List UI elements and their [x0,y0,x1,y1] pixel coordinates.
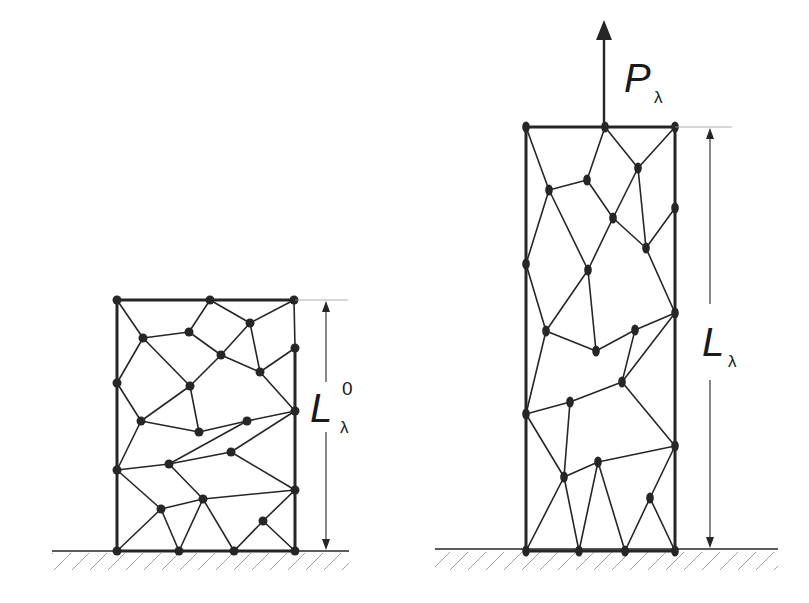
node [522,409,530,420]
spring-link [234,521,263,551]
spring-link [625,498,650,551]
spring-link [141,386,190,421]
spring-link [570,382,622,402]
node [291,547,300,556]
node [227,448,236,457]
node [186,382,195,391]
node [195,428,204,437]
spring-link [161,509,179,551]
node [621,546,629,557]
arrowhead-down-icon [322,539,330,550]
node [243,417,252,426]
spring-link [294,300,295,348]
spring-link [221,355,260,372]
node [575,546,583,557]
dimension-arrows [295,20,732,550]
node [113,379,122,388]
node [113,466,122,475]
node [522,546,530,557]
node [522,259,530,270]
node [259,517,268,526]
spring-link [199,421,247,432]
spring-link [596,330,635,351]
node [291,344,300,353]
spring-link [117,421,141,470]
spring-link [179,499,203,551]
spring-link [546,270,588,331]
reference-mesh [113,296,300,556]
node [542,326,550,337]
reference-length-symbol: L [310,386,332,430]
load-subscript: λ [654,88,663,108]
spring-link [650,446,675,498]
ground-hatching [52,553,349,575]
node [291,486,300,495]
spring-link [646,248,675,313]
reference-length-subscript: λ [340,418,349,438]
node [631,325,639,336]
spring-link [117,470,161,509]
node [165,460,174,469]
node [246,319,255,328]
spring-link [564,462,598,477]
node [157,505,166,514]
node [113,296,122,305]
spring-link [564,477,579,551]
spring-link [549,180,587,190]
spring-link [117,464,169,470]
spring-link [263,490,295,521]
reference-length-label: L λ 0 [310,388,332,428]
node [634,163,642,174]
arrowhead-down-icon [706,537,714,548]
node [618,377,626,388]
spring-link [169,421,247,464]
spring-link [203,490,295,499]
spring-link [549,190,588,270]
spring-link [189,332,221,355]
spring-link [650,498,675,551]
node [566,397,574,408]
spring-link [117,383,141,421]
spring-link [638,127,675,168]
spring-link [143,338,190,386]
node [175,547,184,556]
node [206,296,215,305]
node [592,346,600,357]
spring-link [526,264,546,331]
deformed-length-symbol: L [702,320,724,364]
node [137,417,146,426]
load-arrowhead-icon [596,20,612,40]
load-label: P λ [624,58,651,98]
spring-link [526,477,564,551]
load-symbol: P [624,56,651,100]
node [671,203,679,214]
deformed-length-subscript: λ [728,352,737,372]
spring-link [526,414,564,477]
node [584,265,592,276]
node [217,351,226,360]
spring-link [588,270,596,351]
spring-link [161,499,203,509]
node [291,407,300,416]
spring-link [646,208,675,248]
spring-link [613,168,638,218]
spring-link [203,499,234,551]
deformed-mesh [522,122,679,557]
spring-link [210,300,250,323]
spring-link [587,127,605,180]
spring-link [598,446,675,462]
node [594,457,602,468]
ground-hatching [435,551,778,573]
node [256,368,265,377]
spring-network-deformation-diagram [0,0,809,603]
node [646,493,654,504]
spring-link [598,462,625,551]
node [185,328,194,337]
spring-link [143,332,189,338]
spring-link [141,421,199,432]
spring-link [117,338,143,383]
spring-link [117,509,161,551]
spring-link [260,348,295,372]
spring-link [169,464,203,499]
ground [52,549,778,575]
